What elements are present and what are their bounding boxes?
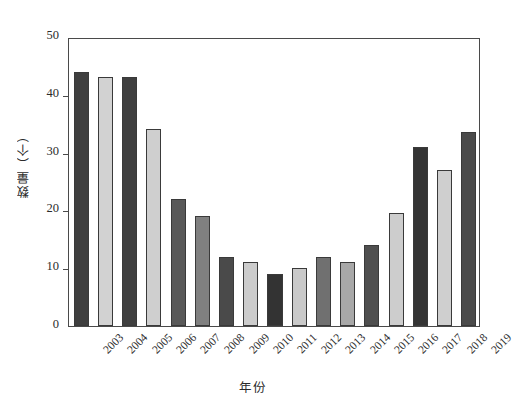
bar-2009 bbox=[219, 257, 234, 326]
bar-2008 bbox=[195, 216, 210, 326]
y-axis-tick-label: 50 bbox=[47, 29, 60, 42]
x-axis-tick-label-2013: 2013 bbox=[343, 331, 368, 356]
y-axis-tick-label: 0 bbox=[53, 318, 59, 331]
x-axis-tick-label-2008: 2008 bbox=[222, 331, 247, 356]
bar-2003 bbox=[74, 72, 89, 326]
bar-2011 bbox=[267, 274, 282, 326]
bar-2010 bbox=[243, 262, 258, 326]
bar-series bbox=[69, 39, 479, 326]
bar-2015 bbox=[364, 245, 379, 326]
x-axis-tick-label-2016: 2016 bbox=[416, 331, 441, 356]
bar-2014 bbox=[340, 262, 355, 326]
bar-2016 bbox=[389, 213, 404, 326]
plot-area bbox=[68, 38, 480, 327]
y-axis-tick-label: 20 bbox=[47, 202, 60, 215]
bar-2017 bbox=[413, 147, 428, 326]
bar-2004 bbox=[98, 77, 113, 326]
x-axis-tick-label-2003: 2003 bbox=[101, 331, 126, 356]
x-axis-tick-label-2007: 2007 bbox=[198, 331, 223, 356]
y-axis-title: 数量（个） bbox=[14, 128, 40, 198]
x-axis-tick-label-2017: 2017 bbox=[440, 331, 465, 356]
x-axis-tick-label-2010: 2010 bbox=[270, 331, 295, 356]
bar-2013 bbox=[316, 257, 331, 326]
y-axis-tick-label: 40 bbox=[47, 87, 60, 100]
x-axis-tick-label-2014: 2014 bbox=[367, 331, 392, 356]
x-axis-title: 年份 bbox=[0, 377, 505, 396]
bar-2019 bbox=[461, 132, 476, 326]
y-axis-tick-label: 10 bbox=[47, 260, 60, 273]
x-axis-tick-label-2005: 2005 bbox=[149, 331, 174, 356]
x-axis-tick-label-2009: 2009 bbox=[246, 331, 271, 356]
bar-2007 bbox=[171, 199, 186, 326]
y-axis-tick-label: 30 bbox=[47, 145, 60, 158]
y-axis: 01020304050 bbox=[0, 0, 68, 407]
bar-2012 bbox=[292, 268, 307, 326]
x-axis-tick-label-2004: 2004 bbox=[125, 331, 150, 356]
bar-2018 bbox=[437, 170, 452, 326]
x-axis-tick-label-2019: 2019 bbox=[489, 331, 513, 356]
x-axis-tick-label-2011: 2011 bbox=[295, 331, 319, 355]
bar-2005 bbox=[122, 77, 137, 326]
x-axis-tick-label-2015: 2015 bbox=[392, 331, 417, 356]
x-axis-tick-label-2018: 2018 bbox=[464, 331, 489, 356]
x-axis-tick-label-2006: 2006 bbox=[174, 331, 199, 356]
bar-2006 bbox=[146, 129, 161, 326]
x-axis-tick-label-2012: 2012 bbox=[319, 331, 344, 356]
